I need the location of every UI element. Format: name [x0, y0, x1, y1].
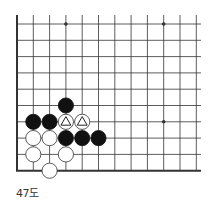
white-stone: [58, 147, 73, 162]
white-stone-body: [42, 163, 57, 178]
black-stone: [26, 114, 41, 129]
black-stone-body: [91, 131, 106, 146]
black-stone-body: [58, 131, 73, 146]
black-stone: [42, 114, 57, 129]
black-stone-body: [42, 114, 57, 129]
white-stone: [58, 114, 73, 129]
diagram-caption: 47도: [16, 184, 39, 200]
white-stone-body: [42, 131, 57, 146]
white-stone: [42, 131, 57, 146]
white-stone-body: [26, 147, 41, 162]
black-stone-body: [58, 98, 73, 113]
go-board: [0, 0, 219, 207]
black-stone-body: [75, 131, 90, 146]
white-stone: [26, 131, 41, 146]
white-stone: [26, 147, 41, 162]
white-stone-body: [58, 147, 73, 162]
black-stone: [75, 131, 90, 146]
star-point: [162, 22, 166, 26]
black-stone: [58, 131, 73, 146]
black-stone: [91, 131, 106, 146]
star-point: [162, 120, 166, 124]
black-stone: [58, 98, 73, 113]
white-stone: [42, 163, 57, 178]
board-grid: [16, 15, 201, 171]
black-stone-body: [26, 114, 41, 129]
white-stone: [75, 114, 90, 129]
star-point: [64, 22, 68, 26]
white-stone-body: [26, 131, 41, 146]
